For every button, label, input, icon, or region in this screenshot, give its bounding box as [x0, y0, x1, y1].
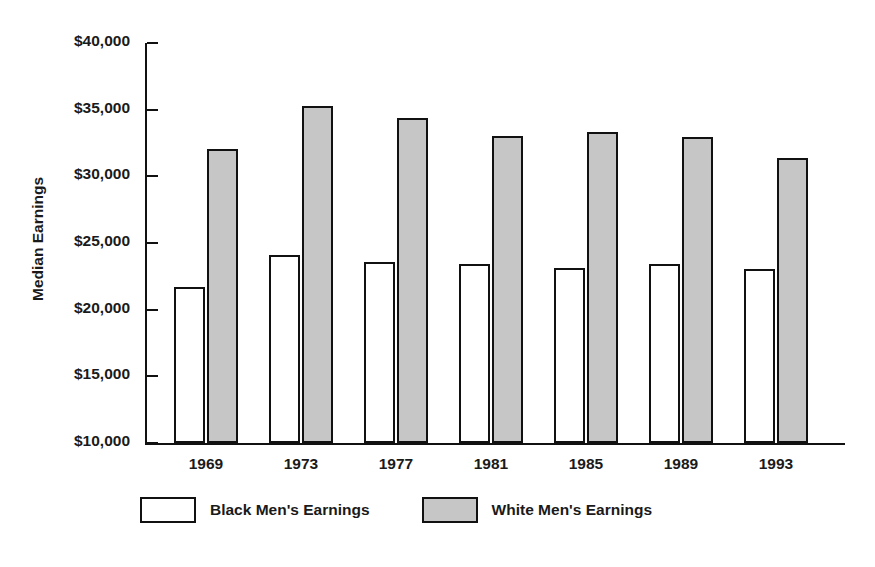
x-axis-line: [145, 443, 845, 445]
bar-chart: Median Earnings 196919731977198119851989…: [0, 0, 875, 567]
legend-swatch-black-men: [140, 497, 196, 523]
x-axis-label-1973: 1973: [251, 455, 351, 473]
bar-black-men-1973: [269, 255, 300, 443]
y-axis-tick-label: $35,000: [10, 99, 130, 117]
y-axis-tick: [147, 442, 158, 444]
chart-legend: Black Men's Earnings White Men's Earning…: [140, 497, 652, 523]
y-axis-tick-label: $20,000: [10, 299, 130, 317]
legend-label-white-men: White Men's Earnings: [492, 501, 652, 519]
bar-black-men-1977: [364, 262, 395, 443]
bar-white-men-1977: [397, 118, 428, 443]
y-axis-tick: [147, 175, 158, 177]
y-axis-tick-label: $25,000: [10, 232, 130, 250]
y-axis-tick: [147, 242, 158, 244]
bar-black-men-1985: [554, 268, 585, 443]
plot-area: 1969197319771981198519891993: [145, 43, 845, 443]
bar-white-men-1989: [682, 137, 713, 443]
bar-black-men-1969: [174, 287, 205, 443]
y-axis-tick: [147, 309, 158, 311]
bar-black-men-1981: [459, 264, 490, 443]
legend-item-white-men: White Men's Earnings: [422, 497, 652, 523]
legend-item-black-men: Black Men's Earnings: [140, 497, 370, 523]
bar-white-men-1985: [587, 132, 618, 443]
bar-white-men-1973: [302, 106, 333, 443]
x-axis-label-1977: 1977: [346, 455, 446, 473]
y-axis-tick: [147, 109, 158, 111]
legend-swatch-white-men: [422, 497, 478, 523]
y-axis-tick: [147, 375, 158, 377]
x-axis-label-1989: 1989: [631, 455, 731, 473]
bar-black-men-1993: [744, 269, 775, 443]
x-axis-label-1981: 1981: [441, 455, 541, 473]
x-axis-label-1969: 1969: [156, 455, 256, 473]
bar-white-men-1969: [207, 149, 238, 443]
y-axis-tick-label: $10,000: [10, 432, 130, 450]
y-axis-tick-label: $30,000: [10, 165, 130, 183]
x-axis-label-1985: 1985: [536, 455, 636, 473]
bar-white-men-1993: [777, 158, 808, 443]
x-axis-label-1993: 1993: [726, 455, 826, 473]
y-axis-tick-label: $40,000: [10, 32, 130, 50]
y-axis-tick: [147, 42, 158, 44]
bar-white-men-1981: [492, 136, 523, 443]
legend-label-black-men: Black Men's Earnings: [210, 501, 370, 519]
bar-black-men-1989: [649, 264, 680, 443]
y-axis-tick-label: $15,000: [10, 365, 130, 383]
